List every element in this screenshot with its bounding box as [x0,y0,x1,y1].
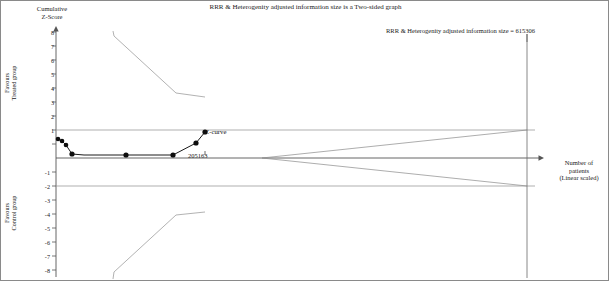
z-curve-point [202,129,207,134]
upper-futility-boundary [262,130,527,158]
z-curve-line [58,132,205,155]
y-axis-ticks [52,32,56,270]
y-axis-arrowhead [53,26,58,32]
z-curve-point [123,152,128,157]
z-curve-point [69,151,74,156]
z-curve-point [64,143,69,148]
tsa-chart-root: RRR & Heterogenity adjusted information … [0,0,611,283]
x-axis-arrowhead [539,155,545,160]
lower-futility-boundary [262,158,527,186]
chart-plot-area [0,0,611,283]
z-curve-point [56,137,61,142]
z-curve-point [193,140,198,145]
upper-alpha-spending-boundary [113,31,205,97]
z-curve-point [170,152,175,157]
z-curve-points [56,129,208,157]
lower-alpha-spending-boundary [113,212,205,279]
z-curve-point [60,139,65,144]
